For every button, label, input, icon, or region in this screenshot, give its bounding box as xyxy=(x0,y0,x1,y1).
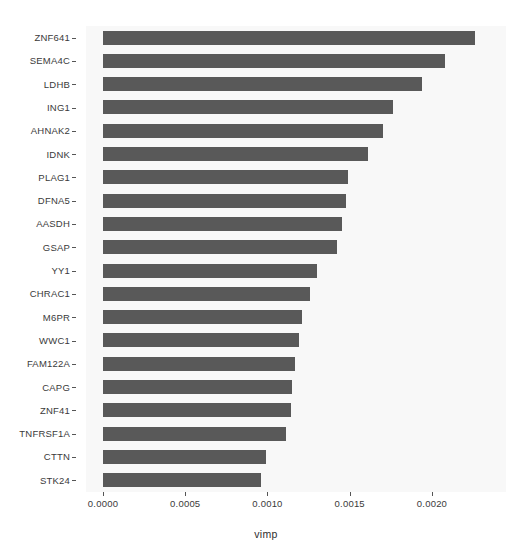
y-tick-mark xyxy=(72,364,76,365)
y-axis-category-labels: ZNF641SEMA4CLDHBING1AHNAK2IDNKPLAG1DFNA5… xyxy=(0,26,86,492)
bar-row xyxy=(86,212,506,235)
bar-ahnak2 xyxy=(103,124,383,138)
y-tick-mark xyxy=(72,201,76,202)
bar-row xyxy=(86,26,506,49)
x-axis-title: vimp xyxy=(0,528,532,540)
y-tick-label-ldhb: LDHB xyxy=(44,73,70,96)
bar-znf41 xyxy=(103,403,291,417)
x-tick-mark xyxy=(432,492,433,496)
y-tick-label-gsap: GSAP xyxy=(43,236,70,259)
y-tick-mark xyxy=(72,480,76,481)
bars-layer xyxy=(86,26,506,492)
y-tick-label-znf641: ZNF641 xyxy=(34,26,70,49)
bar-row xyxy=(86,49,506,72)
bar-row xyxy=(86,306,506,329)
bar-capg xyxy=(103,380,292,394)
bar-row xyxy=(86,329,506,352)
y-tick-mark xyxy=(72,38,76,39)
y-tick-mark xyxy=(72,271,76,272)
x-tick-label-0.0010: 0.0010 xyxy=(252,498,282,509)
vimp-bar-chart: ZNF641SEMA4CLDHBING1AHNAK2IDNKPLAG1DFNA5… xyxy=(0,0,532,556)
x-tick-mark xyxy=(103,492,104,496)
bar-idnk xyxy=(103,147,368,161)
bar-fam122a xyxy=(103,357,295,371)
y-tick-mark xyxy=(72,84,76,85)
bar-ldhb xyxy=(103,77,422,91)
y-tick-mark xyxy=(72,61,76,62)
y-tick-mark xyxy=(72,177,76,178)
bar-chrac1 xyxy=(103,287,310,301)
bar-cttn xyxy=(103,450,266,464)
bar-ing1 xyxy=(103,100,393,114)
bar-row xyxy=(86,73,506,96)
y-tick-label-chrac1: CHRAC1 xyxy=(30,282,70,305)
y-tick-mark xyxy=(72,108,76,109)
y-tick-mark xyxy=(72,457,76,458)
bar-row xyxy=(86,399,506,422)
y-tick-label-m6pr: M6PR xyxy=(43,306,70,329)
y-tick-mark xyxy=(72,341,76,342)
y-tick-label-capg: CAPG xyxy=(42,376,70,399)
bar-plag1 xyxy=(103,170,348,184)
y-tick-mark xyxy=(72,317,76,318)
y-tick-mark xyxy=(72,154,76,155)
bar-row xyxy=(86,282,506,305)
bar-row xyxy=(86,376,506,399)
y-tick-label-aasdh: AASDH xyxy=(36,212,70,235)
bar-row xyxy=(86,352,506,375)
y-tick-label-wwc1: WWC1 xyxy=(39,329,70,352)
bar-row xyxy=(86,189,506,212)
bar-row xyxy=(86,469,506,492)
bar-aasdh xyxy=(103,217,342,231)
y-tick-mark xyxy=(72,247,76,248)
bar-tnfrsf1a xyxy=(103,427,286,441)
y-tick-mark xyxy=(72,434,76,435)
x-tick-mark xyxy=(185,492,186,496)
y-tick-mark xyxy=(72,224,76,225)
bar-stk24 xyxy=(103,473,261,487)
y-tick-label-sema4c: SEMA4C xyxy=(30,49,70,72)
bar-row xyxy=(86,96,506,119)
y-tick-label-plag1: PLAG1 xyxy=(38,166,70,189)
y-tick-label-fam122a: FAM122A xyxy=(27,352,70,375)
y-tick-label-znf41: ZNF41 xyxy=(40,399,70,422)
bar-yy1 xyxy=(103,264,317,278)
bar-dfna5 xyxy=(103,194,346,208)
x-axis: 0.00000.00050.00100.00150.0020 xyxy=(86,492,506,522)
bar-row xyxy=(86,119,506,142)
bar-row xyxy=(86,236,506,259)
x-tick-label-0.0020: 0.0020 xyxy=(417,498,447,509)
bar-znf641 xyxy=(103,31,475,45)
x-tick-mark xyxy=(350,492,351,496)
x-tick-label-0.0005: 0.0005 xyxy=(170,498,200,509)
x-tick-label-0.0015: 0.0015 xyxy=(335,498,365,509)
bar-gsap xyxy=(103,240,337,254)
y-tick-label-ing1: ING1 xyxy=(47,96,70,119)
bar-row xyxy=(86,166,506,189)
y-tick-label-ahnak2: AHNAK2 xyxy=(31,119,70,142)
bar-wwc1 xyxy=(103,333,299,347)
bar-row xyxy=(86,259,506,282)
x-tick-label-0.0000: 0.0000 xyxy=(88,498,118,509)
y-tick-label-idnk: IDNK xyxy=(47,143,71,166)
y-tick-mark xyxy=(72,410,76,411)
y-tick-label-tnfrsf1a: TNFRSF1A xyxy=(19,422,70,445)
bar-row xyxy=(86,445,506,468)
y-tick-mark xyxy=(72,387,76,388)
y-tick-label-cttn: CTTN xyxy=(44,445,70,468)
x-tick-mark xyxy=(267,492,268,496)
y-tick-label-dfna5: DFNA5 xyxy=(38,189,70,212)
bar-row xyxy=(86,422,506,445)
bar-m6pr xyxy=(103,310,302,324)
y-tick-label-stk24: STK24 xyxy=(40,469,70,492)
y-tick-mark xyxy=(72,131,76,132)
bar-row xyxy=(86,143,506,166)
y-tick-mark xyxy=(72,294,76,295)
y-tick-label-yy1: YY1 xyxy=(51,259,70,282)
bar-sema4c xyxy=(103,54,445,68)
